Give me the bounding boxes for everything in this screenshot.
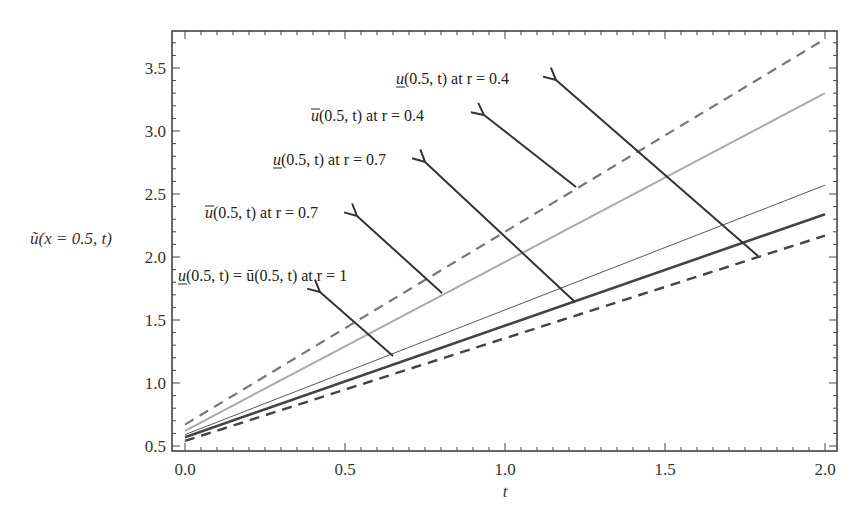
axis-ticks: 0.00.51.01.52.00.51.01.52.02.53.03.5 [145,31,837,479]
y-tick-label: 2.5 [145,185,166,204]
x-tick-label: 1.0 [494,460,515,479]
y-tick-label: 1.5 [145,311,166,330]
y-tick-label: 3.0 [145,122,166,141]
annotation-arrow [320,292,393,356]
series-line-2 [185,185,825,434]
chart: 0.00.51.01.52.00.51.01.52.02.53.03.5 u(0… [0,0,868,529]
series-line-3 [185,214,825,437]
y-tick-label: 3.5 [145,59,166,78]
annotations: u(0.5, t) at r = 0.4u(0.5, t) at r = 0.4… [178,70,758,356]
plot-frame [172,31,837,451]
x-tick-label: 1.5 [654,460,675,479]
svg-text:u(0.5, t) at r = 0.4: u(0.5, t) at r = 0.4 [396,70,509,88]
annotation-arrow [357,216,442,293]
y-axis-label: ũ(x = 0.5, t) [30,229,112,248]
y-tick-label: 1.0 [145,374,166,393]
annotation-label: u(0.5, t) at r = 0.7 [273,151,386,169]
svg-text:u(0.5, t) = ū(0.5, t) at r = 1: u(0.5, t) = ū(0.5, t) at r = 1 [178,267,347,285]
data-series [185,39,825,441]
annotation-arrow [556,80,758,256]
plot-area [172,31,837,451]
x-tick-label: 2.0 [814,460,835,479]
x-tick-label: 0.5 [334,460,355,479]
annotation-label: u(0.5, t) at r = 0.7 [205,204,318,222]
annotation-arrow [425,162,575,302]
y-tick-label: 0.5 [145,437,166,456]
svg-text:u(0.5, t) at r = 0.7: u(0.5, t) at r = 0.7 [273,151,386,169]
y-tick-label: 2.0 [145,248,166,267]
annotation-label: u(0.5, t) at r = 0.4 [311,107,424,125]
annotation-arrow [484,115,576,187]
series-line-1 [185,93,825,431]
x-axis-label: t [503,482,509,501]
annotation-label: u(0.5, t) at r = 0.4 [396,70,509,88]
svg-text:u(0.5, t) at r = 0.7: u(0.5, t) at r = 0.7 [205,204,318,222]
svg-text:u(0.5, t) at r = 0.4: u(0.5, t) at r = 0.4 [311,107,424,125]
x-tick-label: 0.0 [174,460,195,479]
annotation-label: u(0.5, t) = ū(0.5, t) at r = 1 [178,267,347,285]
